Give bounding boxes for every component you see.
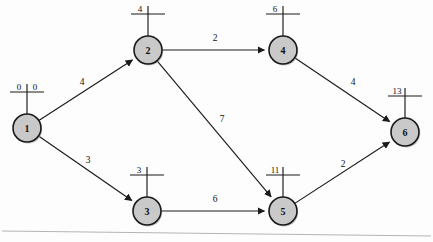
edges-layer: 4327642 [39,33,390,211]
node-id-label: 6 [403,127,408,138]
page-edge-layer [2,231,431,236]
node-3[interactable]: 3 [133,197,162,227]
marker-value-left: 0 [17,82,22,92]
edge-weight-label: 7 [220,114,225,124]
node-marker-6: 13 [388,86,422,120]
marker-value-left: 4 [138,4,143,14]
marker-value-left: 6 [273,4,278,14]
node-marker-4: 6 [266,4,300,38]
node-marker-5: 11 [266,165,300,199]
edge-weight-label: 2 [213,33,218,43]
network-diagram-canvas: 4327642 004361113 123456 [0,0,433,242]
marker-value-left: 3 [137,165,142,175]
node-id-label: 5 [281,206,286,217]
edge-3-to-5: 6 [162,194,265,211]
node-id-label: 1 [25,123,30,134]
node-1[interactable]: 1 [13,114,42,144]
page-edge-line [2,231,431,236]
edge-5-to-6: 2 [295,142,389,203]
edge-arrow-line [295,58,390,122]
node-marker-1: 00 [10,82,44,116]
node-marker-2: 4 [131,4,165,38]
edge-weight-label: 2 [341,159,346,169]
edge-1-to-3: 3 [39,136,132,200]
node-id-label: 4 [281,45,286,56]
node-4[interactable]: 4 [269,36,298,66]
network-diagram-svg: 4327642 004361113 123456 [0,0,433,242]
node-id-label: 2 [146,45,151,56]
node-marker-3: 3 [130,165,164,199]
edge-4-to-6: 4 [295,58,390,122]
marker-value-left: 13 [393,86,403,96]
edge-weight-label: 4 [80,77,85,87]
edge-arrow-line [39,136,132,200]
node-2[interactable]: 2 [134,36,163,66]
edge-2-to-4: 2 [163,33,265,50]
node-5[interactable]: 5 [269,197,298,227]
marker-value-right: 0 [33,82,38,92]
edge-2-to-5: 7 [157,61,271,197]
edge-1-to-2: 4 [39,60,132,120]
edge-weight-label: 3 [86,155,91,165]
edge-arrow-line [157,61,271,197]
edge-arrow-line [39,60,132,120]
edge-arrow-line [295,142,389,203]
edge-weight-label: 6 [213,194,218,204]
node-id-label: 3 [145,206,150,217]
marker-value-left: 11 [271,165,280,175]
node-6[interactable]: 6 [391,118,420,148]
edge-weight-label: 4 [351,77,356,87]
